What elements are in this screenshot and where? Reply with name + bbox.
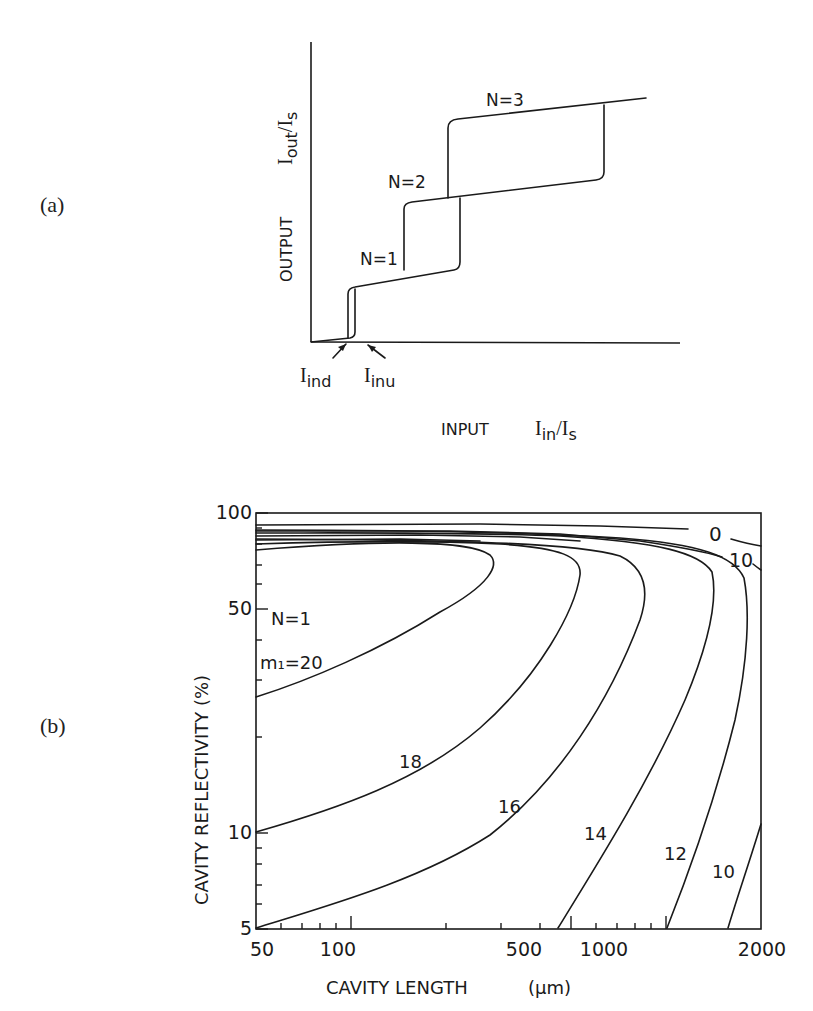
y-tick-100: 100 [216, 501, 252, 523]
figure-canvas: N=1 N=2 N=3 Iind Iinu INPUT Iin/Is OUTPU… [0, 0, 813, 1011]
annotation-n1: N=1 [271, 608, 311, 629]
label-n2: N=2 [388, 172, 426, 192]
curve-10-top-end [753, 564, 761, 570]
x-axis-label-a: INPUT [441, 420, 489, 439]
curve-18 [256, 542, 580, 832]
x-axis-label-b: CAVITY LENGTH [326, 977, 468, 998]
x-tick-50: 50 [250, 938, 274, 960]
label-18: 18 [399, 751, 422, 772]
arrow-ind-icon [333, 344, 346, 358]
x-tick-500: 500 [506, 938, 542, 960]
label-n1: N=1 [360, 249, 398, 269]
x-tick-1000: 1000 [580, 938, 628, 960]
label-i-inu: Iinu [364, 364, 395, 391]
label-16: 16 [498, 796, 521, 817]
curve-0 [256, 524, 688, 529]
label-n3: N=3 [486, 90, 524, 110]
y-ticks-b [256, 513, 268, 929]
y-tick-50: 50 [228, 597, 252, 619]
x-axis-a [311, 342, 680, 343]
y-axis-label-b: CAVITY REFLECTIVITY (%) [191, 675, 212, 905]
label-10-top: 10 [729, 549, 753, 571]
branch-n3 [448, 98, 646, 198]
y-tick-5: 5 [240, 917, 252, 939]
x-ticks-b [281, 916, 666, 929]
chart-b: 100 50 10 5 50 100 500 1000 2000 CAVITY … [191, 501, 786, 998]
chart-a: N=1 N=2 N=3 Iind Iinu INPUT Iin/Is OUTPU… [274, 42, 680, 444]
y-tick-10: 10 [228, 821, 252, 843]
label-0: 0 [709, 522, 722, 546]
x-tick-2000: 2000 [738, 938, 786, 960]
curve-16 [256, 539, 645, 928]
x-tick-100: 100 [320, 938, 356, 960]
plot-frame-b [256, 513, 761, 929]
curve-12 [256, 530, 747, 928]
label-m1-20: m₁=20 [260, 652, 323, 673]
arrow-inu-icon [368, 345, 385, 358]
branch-n2-loop [404, 105, 604, 270]
label-10-bottom: 10 [712, 861, 735, 882]
y-axis-label-a: OUTPUT [277, 217, 296, 282]
label-i-ind: Iind [300, 364, 331, 391]
x-axis-unit-b: (μm) [528, 977, 571, 998]
label-14: 14 [584, 823, 607, 844]
label-12: 12 [664, 843, 687, 864]
y-axis-quantity-a: Iout/Is [274, 112, 301, 165]
x-axis-quantity-a: Iin/Is [535, 417, 577, 444]
curve-0-end [731, 539, 761, 546]
